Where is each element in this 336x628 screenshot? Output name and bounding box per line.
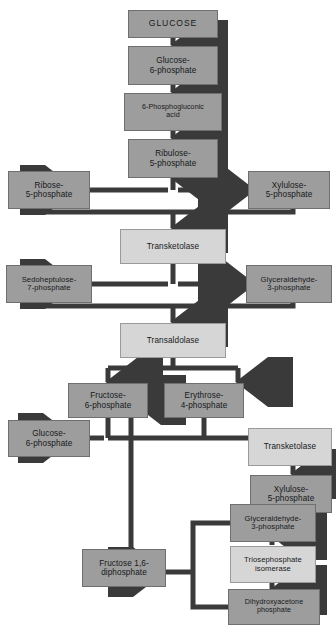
edge-dhap-elbow — [193, 572, 232, 607]
node-transketolase-2[interactable]: Transketolase — [248, 428, 332, 466]
edge-gap-elbow — [173, 303, 293, 306]
node-ribose-5-phosphate[interactable]: Ribose-5-phosphate — [8, 171, 90, 209]
node-sedoheptulose-7-phosphate[interactable]: Sedoheptulose-7-phosphate — [6, 265, 92, 303]
node-xylulose-5-phosphate-top[interactable]: Xylulose-5-phosphate — [248, 171, 330, 209]
node-g6p-top-label: Glucose-6-phosphate — [150, 56, 197, 74]
node-fructose-6-phosphate[interactable]: Fructose-6-phosphate — [68, 383, 148, 418]
node-glucose-label: GLUCOSE — [149, 19, 197, 29]
node-fructose6p-label: Fructose-6-phosphate — [85, 391, 132, 409]
node-glucose-6-phosphate-bottom[interactable]: Glucose-6-phosphate — [8, 420, 90, 457]
node-glucose-6-phosphate-top[interactable]: Glucose-6-phosphate — [128, 46, 218, 85]
node-gap-mid-label: Glyceraldehyde-3-phosphate — [261, 276, 318, 293]
node-sedo7p-label: Sedoheptulose-7-phosphate — [22, 276, 77, 293]
node-glyceraldehyde-3-phosphate-mid[interactable]: Glyceraldehyde-3-phosphate — [246, 265, 332, 303]
node-fdp-label: Fructose 1,6-diphosphate — [99, 559, 149, 577]
node-ribulose-5-phosphate[interactable]: Ribulose-5-phosphate — [128, 139, 218, 178]
node-6-phosphogluconic-acid[interactable]: 6-Phosphogluconicacid — [124, 93, 222, 131]
node-transketolase-1[interactable]: Transketolase — [120, 229, 226, 264]
node-transketolase-2-label: Transketolase — [264, 442, 316, 451]
node-gap-bottom-label: Glyceraldehyde-3-phosphate — [245, 515, 302, 532]
node-transaldolase[interactable]: Transaldolase — [120, 323, 226, 358]
node-glucose[interactable]: GLUCOSE — [128, 10, 218, 38]
node-g6p-bottom-label: Glucose-6-phosphate — [26, 429, 73, 447]
node-erythrose4p-label: Erythrose-4-phosphate — [181, 391, 228, 409]
node-tpi-label: Triosephosphateisomerase — [244, 556, 302, 573]
node-pga-label: 6-Phosphogluconicacid — [142, 104, 204, 120]
node-triosephosphate-isomerase[interactable]: Triosephosphateisomerase — [230, 546, 316, 583]
node-dhap-label: Dihydroxyacetonephosphate — [245, 599, 303, 615]
node-ribulose5p-label: Ribulose-5-phosphate — [150, 149, 197, 167]
edge-gap-bottom-elbow — [193, 523, 232, 572]
edge-ribose-elbow — [43, 209, 173, 212]
node-xylulose5p-top-label: Xylulose-5-phosphate — [266, 181, 313, 199]
node-xylulose5p-bot-label: Xylulose-5-phosphate — [268, 485, 315, 503]
node-transketolase-1-label: Transketolase — [147, 242, 199, 251]
node-dihydroxyacetone-phosphate[interactable]: Dihydroxyacetonephosphate — [228, 589, 320, 625]
node-erythrose-4-phosphate[interactable]: Erythrose-4-phosphate — [164, 383, 244, 418]
edge-xylulose-elbow — [173, 209, 293, 212]
node-fructose-1-6-diphosphate[interactable]: Fructose 1,6-diphosphate — [82, 549, 166, 587]
node-transaldolase-label: Transaldolase — [147, 336, 199, 345]
edge-sedo-elbow — [43, 303, 173, 306]
node-ribose5p-label: Ribose-5-phosphate — [26, 181, 73, 199]
pathway-diagram: GLUCOSE Glucose-6-phosphate 6-Phosphoglu… — [0, 0, 336, 628]
node-glyceraldehyde-3-phosphate-bottom[interactable]: Glyceraldehyde-3-phosphate — [230, 504, 316, 542]
